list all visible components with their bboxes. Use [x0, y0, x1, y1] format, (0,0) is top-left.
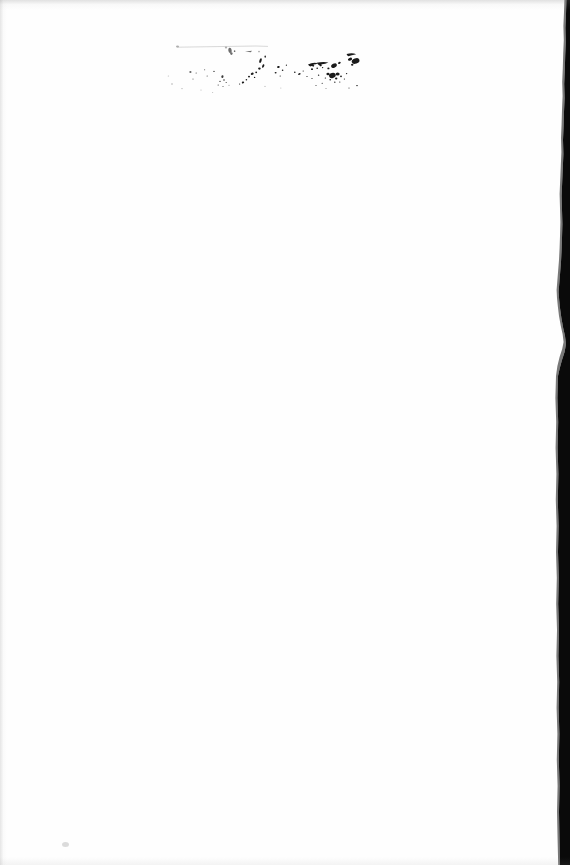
document-body-text: [8, 115, 536, 845]
scanned-document-page: [0, 0, 570, 865]
